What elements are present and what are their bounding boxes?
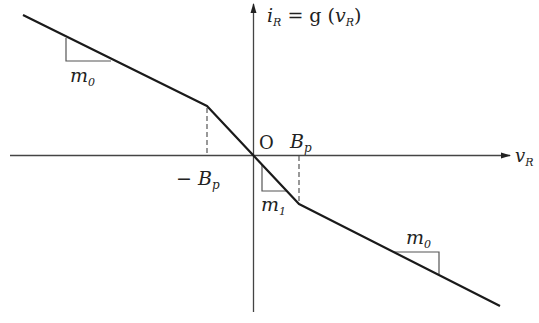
piecewise-linear-diagram: iR = g (vR) vR O Bp − Bp m0 m1 m0: [0, 0, 539, 323]
slope-triangle-left: [66, 38, 111, 61]
pos-breakpoint-label: Bp: [289, 130, 312, 155]
slope-label-left: m0: [70, 64, 95, 89]
characteristic-curve: [23, 15, 500, 306]
neg-breakpoint-label: − Bp: [176, 167, 220, 192]
slope-label-inner: m1: [261, 193, 286, 218]
y-axis-label: iR = g (vR): [267, 4, 361, 29]
origin-label: O: [259, 132, 274, 153]
x-axis-label: vR: [515, 145, 533, 169]
slope-label-right: m0: [406, 226, 431, 251]
